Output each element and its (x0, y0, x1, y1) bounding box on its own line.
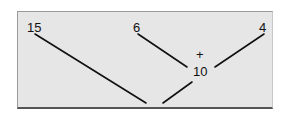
number-4: 4 (259, 21, 266, 34)
tree-lines (0, 0, 285, 113)
number-6: 6 (133, 21, 140, 34)
number-10: 10 (193, 65, 207, 78)
number-15: 15 (27, 21, 41, 34)
plus-operator: + (196, 48, 204, 61)
